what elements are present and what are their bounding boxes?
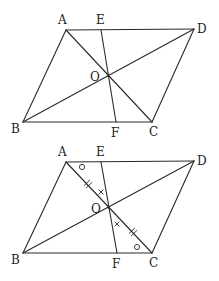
intersection-point-o [107, 75, 109, 77]
point-label-e: E [96, 13, 105, 27]
point-label-b: B [11, 122, 20, 136]
intersection-point-o [108, 207, 110, 209]
parallelogram-diagrams: AEDBCFO AEDBCFO [0, 0, 219, 281]
segment-ad [66, 161, 194, 162]
point-label-o: O [90, 70, 100, 84]
point-label-c: C [149, 256, 158, 270]
segment-dc [152, 161, 194, 253]
point-label-o: O [91, 202, 101, 216]
segment-ba [23, 162, 66, 253]
segment-dc [152, 29, 194, 122]
figure-parallelogram-bottom: AEDBCFO [11, 145, 207, 271]
point-label-a: A [57, 145, 67, 159]
point-label-f: F [111, 126, 119, 140]
circle-angle-mark-icon [134, 244, 139, 249]
circle-angle-mark-icon [79, 164, 84, 169]
cross-angle-mark-icon [115, 222, 120, 227]
segment-ba [23, 30, 66, 122]
point-label-d: D [197, 22, 207, 36]
figure-parallelogram-top: AEDBCFO [11, 13, 207, 140]
segment-ad [66, 29, 194, 30]
point-label-a: A [57, 13, 67, 27]
point-label-c: C [149, 125, 158, 139]
double-tick-equal-mark-icon [84, 180, 92, 188]
point-label-e: E [96, 145, 105, 159]
point-label-b: B [11, 253, 20, 267]
point-label-d: D [197, 154, 207, 168]
point-label-f: F [112, 257, 120, 271]
cross-angle-mark-icon [99, 190, 104, 195]
